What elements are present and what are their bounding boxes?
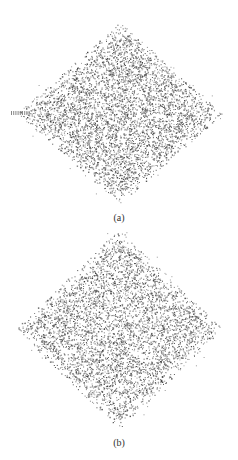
- scatter-plot-b: [0, 0, 238, 460]
- figure-b: (b): [0, 0, 238, 460]
- caption-b: (b): [0, 437, 238, 448]
